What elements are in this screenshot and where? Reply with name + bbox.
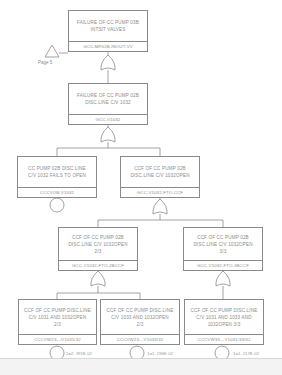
fault-tree-gate-g2[interactable]: CCF OF CC PUMP 02B DISC.LINE C/V 1032OPE… <box>120 156 200 198</box>
or-gate-icon <box>101 127 115 142</box>
fault-tree-gate-g3[interactable]: CCF OF CC PUMP 02B DISC.LINE C/V 1032OPE… <box>58 227 138 271</box>
or-gate-icon <box>101 55 115 70</box>
fault-tree-gate-g4[interactable]: CCF OF CC PUMP 02B DISC.LINE C/V 1032OPE… <box>183 227 263 271</box>
or-gate-icon <box>216 271 230 286</box>
basic-event-icon <box>130 346 144 358</box>
event-description: CCF OF CC PUMP DISC.LINE C/V 1031 AND 10… <box>185 300 263 334</box>
gate-id: GCC-V1032-FTO-CCF <box>121 187 199 197</box>
gate-description: FAILURE OF CC PUMP 03B INTSIT VALVES <box>69 11 147 41</box>
fault-tree-page: Page 5 FAILURE OF CC PUMP 03B INTSIT VAL… <box>0 0 282 358</box>
fault-tree-event-e2[interactable]: CCF OF CC PUMP DISC.LINE C/V 1031 AND 10… <box>18 299 97 345</box>
event-id: CCCVOB-V1032 <box>18 187 96 197</box>
event-id: CCCVW33---V1031/33/32 <box>185 334 263 344</box>
event-description: CC PUMP 02B DISC.LINE C/V 1032 FAILS TO … <box>18 157 96 187</box>
gate-id: GCC-V1032 <box>69 114 147 124</box>
gate-description: CCF OF CC PUMP 02B DISC.LINE C/V 1032OPE… <box>59 228 137 260</box>
gate-description: CCF OF CC PUMP 02B DISC.LINE C/V 1032OPE… <box>184 228 262 260</box>
or-gate-icon <box>153 199 167 214</box>
event-probability: 1=2. 391E-02 <box>66 351 92 356</box>
gate-id: GCC-V1032-FTO-3BCCF <box>184 260 262 270</box>
event-probability: 1=1. 196E-02 <box>147 351 173 356</box>
event-probability: 1=1. 217E-02 <box>233 351 259 356</box>
fault-tree-event-e4[interactable]: CCF OF CC PUMP DISC.LINE C/V 1031 AND 10… <box>184 299 264 345</box>
fault-tree-gate-top[interactable]: FAILURE OF CC PUMP 03B INTSIT VALVES GCC… <box>68 10 148 52</box>
basic-event-icon <box>50 198 64 212</box>
transfer-page-label: Page 5 <box>38 60 52 65</box>
event-id: CCCVW23---V1031/32 <box>19 334 96 344</box>
fault-tree-gate-g1[interactable]: FAILURE OF CC PUMP 02B DISC.LINE C/V 103… <box>68 83 148 125</box>
fault-tree-event-e1[interactable]: CC PUMP 02B DISC.LINE C/V 1032 FAILS TO … <box>17 156 97 198</box>
gate-description: CCF OF CC PUMP 02B DISC.LINE C/V 1032OPE… <box>121 157 199 187</box>
gate-id: GCC-MP02B-INOUT-VV <box>69 41 147 51</box>
event-description: CCF OF CC PUMP DISC.LINE C/V 1031 AND 10… <box>19 300 96 334</box>
gate-description: FAILURE OF CC PUMP 02B DISC.LINE C/V 103… <box>69 84 147 114</box>
basic-event-icon <box>215 346 229 358</box>
gate-id: GCC-V1032-FTO-2BCCF <box>59 260 137 270</box>
event-id: CCCVW23---V1033/32 <box>101 334 179 344</box>
basic-event-icon <box>50 346 64 358</box>
fault-tree-event-e3[interactable]: CCF OF CC PUMP DISC.LINE C/V 1033 AND 10… <box>100 299 180 345</box>
page-bottom-margin <box>0 358 282 375</box>
or-gate-icon <box>91 271 105 286</box>
event-description: CCF OF CC PUMP DISC.LINE C/V 1033 AND 10… <box>101 300 179 334</box>
transfer-triangle-icon <box>45 45 59 57</box>
